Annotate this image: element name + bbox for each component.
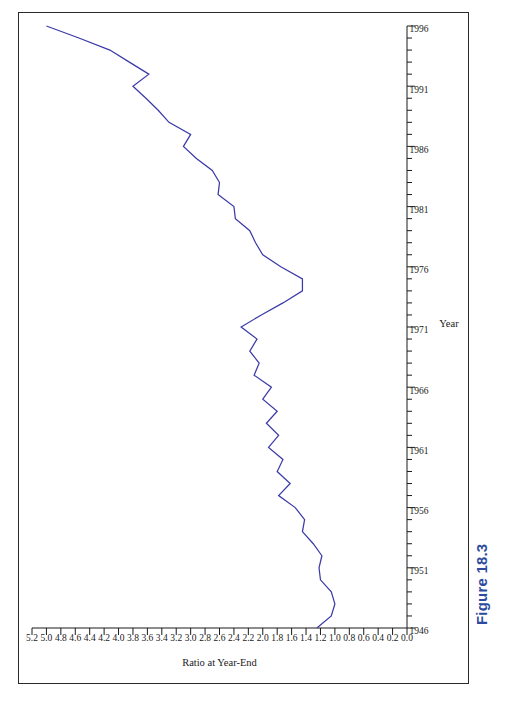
y-axis-tick-label: 4.6 — [69, 633, 81, 643]
y-axis-tick-label: 0.0 — [401, 633, 413, 643]
y-axis-tick-label: 1.2 — [315, 633, 327, 643]
y-axis-tick-label: 0.6 — [358, 633, 370, 643]
y-axis-tick-label: 2.2 — [242, 633, 254, 643]
y-axis-tick-label: 5.0 — [40, 633, 52, 643]
y-axis-tick-label: 1.8 — [271, 633, 283, 643]
y-axis-tick-label: 2.4 — [228, 633, 240, 643]
y-axis-tick-label: 5.2 — [26, 633, 38, 643]
x-axis-tick-label: 1986 — [410, 145, 429, 155]
y-axis-title: Ratio at Year-End — [182, 657, 257, 668]
data-series-line — [46, 26, 334, 628]
x-axis-tick-label: 1961 — [410, 446, 429, 456]
y-axis-tick-label: 3.2 — [170, 633, 182, 643]
x-axis-tick-label: 1951 — [410, 566, 429, 576]
x-axis-tick-label: 1956 — [410, 506, 429, 516]
y-axis-tick-label: 4.8 — [55, 633, 67, 643]
y-axis-tick-label: 4.0 — [113, 633, 125, 643]
x-axis-tick-label: 1981 — [410, 205, 429, 215]
y-axis-tick-label: 0.2 — [387, 633, 399, 643]
y-axis-tick-label: 0.8 — [343, 633, 355, 643]
y-axis-tick-label: 1.4 — [300, 633, 312, 643]
x-axis-tick-label: 1991 — [410, 85, 429, 95]
figure-caption: Figure 18.3 — [473, 505, 490, 625]
y-axis-tick-label: 2.8 — [199, 633, 211, 643]
y-axis-tick-label: 1.6 — [286, 633, 298, 643]
x-axis-tick-label: 1971 — [410, 325, 429, 335]
line-chart: 1946195119561961196619711976198119861991… — [18, 12, 469, 684]
x-axis-title: Year — [439, 318, 459, 329]
y-axis-tick-label: 3.8 — [127, 633, 139, 643]
y-axis-tick-label: 1.0 — [329, 633, 341, 643]
y-axis-tick-label: 4.4 — [84, 633, 96, 643]
y-axis-tick-label: 2.6 — [214, 633, 226, 643]
chart-container: 1946195119561961196619711976198119861991… — [18, 12, 469, 684]
x-axis-tick-label: 1966 — [410, 386, 429, 396]
y-axis-tick-label: 3.4 — [156, 633, 168, 643]
y-axis-tick-label: 3.0 — [185, 633, 197, 643]
x-axis-tick-label: 1996 — [410, 24, 429, 34]
x-axis-tick-label: 1976 — [410, 265, 429, 275]
y-axis-tick-label: 2.0 — [257, 633, 269, 643]
y-axis-tick-label: 3.6 — [141, 633, 153, 643]
y-axis-tick-label: 4.2 — [98, 633, 110, 643]
y-axis-tick-label: 0.4 — [372, 633, 384, 643]
